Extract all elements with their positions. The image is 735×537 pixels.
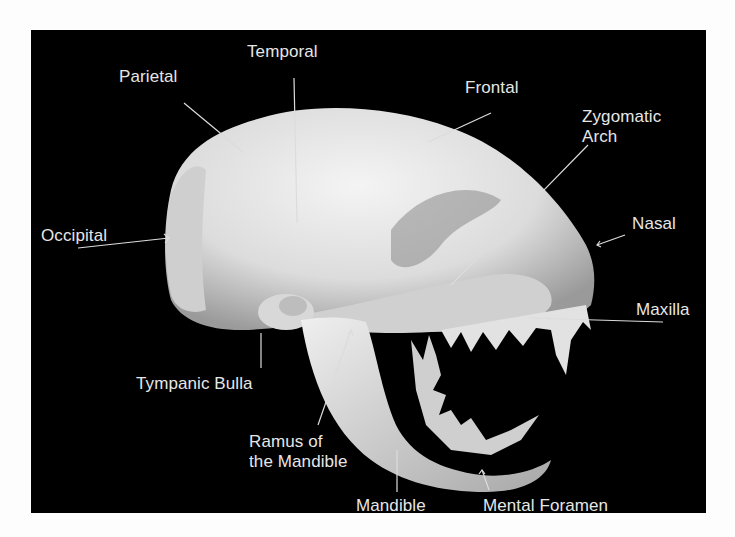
label-zygomatic-arch: Zygomatic Arch <box>582 107 661 147</box>
skull-photo: Temporal Parietal Frontal Zygomatic Arch… <box>31 30 706 513</box>
lower-teeth <box>411 335 539 455</box>
label-frontal: Frontal <box>465 78 519 98</box>
label-occipital: Occipital <box>41 226 107 246</box>
label-maxilla: Maxilla <box>636 300 690 320</box>
label-temporal: Temporal <box>247 42 318 62</box>
label-tympanic-bulla: Tympanic Bulla <box>136 374 253 394</box>
label-nasal: Nasal <box>632 214 676 234</box>
label-mental-foramen: Mental Foramen <box>483 496 608 513</box>
label-mandible: Mandible <box>356 496 426 513</box>
skull-illustration <box>31 30 706 513</box>
label-ramus-of-the-mandible: Ramus of the Mandible <box>249 432 348 472</box>
label-parietal: Parietal <box>119 67 177 87</box>
